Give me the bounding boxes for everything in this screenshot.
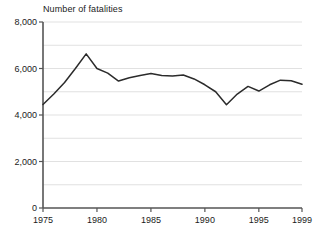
y-axis-tick-label: 8,000 <box>14 17 37 27</box>
fatalities-data-line <box>43 54 302 105</box>
x-axis-tick-label: 1999 <box>292 215 312 225</box>
y-axis-tick-label: 0 <box>32 203 37 213</box>
y-axis-tick-label: 6,000 <box>14 64 37 74</box>
gridlines <box>43 22 302 185</box>
fatalities-line-chart: Number of fatalities 02,0004,0006,0008,0… <box>0 0 323 243</box>
x-axis-tick-label: 1995 <box>249 215 269 225</box>
x-axis-tick-label: 1990 <box>195 215 215 225</box>
chart-plot-area <box>0 0 323 243</box>
y-axis-tick-label: 4,000 <box>14 110 37 120</box>
x-axis-tick-label: 1980 <box>87 215 107 225</box>
y-axis-tick-label: 2,000 <box>14 157 37 167</box>
x-axis-tick-label: 1975 <box>33 215 53 225</box>
x-axis-tick-label: 1985 <box>141 215 161 225</box>
